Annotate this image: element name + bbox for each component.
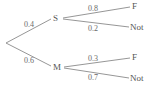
prob-m-f: 0.3	[88, 54, 98, 63]
leaf-m-f: F	[132, 52, 137, 62]
leaf-m-not: Not	[130, 73, 144, 83]
leaf-s-f: F	[132, 1, 137, 11]
node-s: S	[53, 13, 58, 23]
prob-m: 0.6	[24, 56, 34, 65]
prob-s-not: 0.2	[88, 24, 98, 33]
prob-s-f: 0.8	[88, 4, 98, 13]
probability-tree: 0.4 0.6 S M 0.8 0.2 0.3 0.7 F Not F Not	[0, 0, 147, 86]
prob-m-not: 0.7	[88, 73, 98, 82]
node-m: M	[53, 62, 61, 72]
leaf-s-not: Not	[130, 22, 144, 32]
prob-s: 0.4	[24, 20, 34, 29]
